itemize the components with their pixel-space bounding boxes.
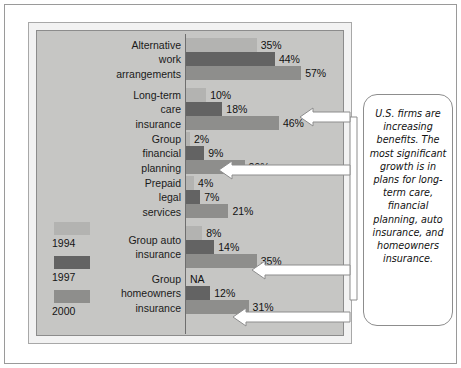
bar-1997 [186, 190, 200, 204]
bar-value-label: 35% [261, 38, 282, 52]
bar-value-label: 31% [253, 300, 274, 314]
callout-box: U.S. firms are increasing benefits. The … [363, 94, 453, 326]
legend-swatch-2000 [54, 290, 90, 303]
bar-value-label: 57% [305, 66, 326, 80]
category-label-line: legal [61, 190, 181, 205]
bar-1997 [186, 52, 275, 66]
category-label-line: Long-term [61, 88, 181, 103]
bar-value-label: 9% [208, 146, 223, 160]
category-label: Prepaidlegalservices [61, 176, 181, 220]
legend: 199419972000 [52, 222, 110, 324]
bar-1994 [186, 132, 190, 146]
bar-value-label: 35% [261, 254, 282, 268]
bar-1994 [186, 38, 257, 52]
category-label-line: arrangements [61, 67, 181, 82]
category-label: Alternativeworkarrangements [61, 38, 181, 82]
category-label-line: planning [61, 161, 181, 176]
bar-value-label: 46% [283, 116, 304, 130]
category-label-line: care [61, 102, 181, 117]
bar-2000 [186, 66, 301, 80]
bar-1997 [186, 240, 214, 254]
bar-1994 [186, 226, 202, 240]
legend-item: 1997 [52, 256, 110, 284]
category-label-line: insurance [61, 117, 181, 132]
category-label-line: services [61, 205, 181, 220]
callout-text: U.S. firms are increasing benefits. The … [369, 107, 447, 265]
bar-2000 [186, 160, 245, 174]
bar-1994 [186, 176, 194, 190]
bar-2000 [186, 300, 249, 314]
bar-value-label: 14% [218, 240, 239, 254]
bar-2000 [186, 116, 279, 130]
bar-value-label: 2% [194, 132, 209, 146]
legend-label: 1997 [52, 270, 110, 284]
chart-figure: Alternativeworkarrangements35%44%57%Long… [0, 0, 461, 368]
category-label-line: Group [61, 132, 181, 147]
legend-item: 1994 [52, 222, 110, 250]
bar-2000 [186, 254, 257, 268]
category-label-line: Alternative [61, 38, 181, 53]
bar-value-label: 29% [249, 160, 270, 174]
bar-value-label: 10% [210, 88, 231, 102]
category-label-line: financial [61, 146, 181, 161]
bar-value-label: 12% [214, 286, 235, 300]
bar-value-label: 44% [279, 52, 300, 66]
category-label: Groupfinancialplanning [61, 132, 181, 176]
bar-2000 [186, 204, 228, 218]
legend-label: 2000 [52, 304, 110, 318]
legend-label: 1994 [52, 236, 110, 250]
bar-value-label: 18% [226, 102, 247, 116]
bar-1994 [186, 88, 206, 102]
bar-value-label: 8% [206, 226, 221, 240]
legend-item: 2000 [52, 290, 110, 318]
bar-value-label: 21% [232, 204, 253, 218]
bar-value-label: 7% [204, 190, 219, 204]
bar-value-label: 4% [198, 176, 213, 190]
bar-1997 [186, 146, 204, 160]
bar-value-label: NA [190, 272, 205, 286]
bar-1997 [186, 102, 222, 116]
category-label-line: work [61, 52, 181, 67]
bar-1997 [186, 286, 210, 300]
legend-swatch-1994 [54, 222, 90, 235]
legend-swatch-1997 [54, 256, 90, 269]
category-label-line: Prepaid [61, 176, 181, 191]
category-label: Long-termcareinsurance [61, 88, 181, 132]
